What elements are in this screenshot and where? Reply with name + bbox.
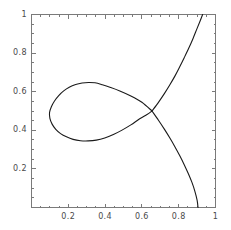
- x-tick-label: 0.8: [168, 212, 190, 221]
- x-tick-label: 0.6: [131, 212, 153, 221]
- x-tick-label: 0.2: [57, 212, 79, 221]
- frame-rect: [32, 15, 216, 208]
- y-tick-label: 0.2: [0, 164, 27, 173]
- y-tick-label: 0.8: [0, 48, 27, 57]
- plot-frame: [32, 15, 216, 208]
- curve-paths: [49, 15, 202, 208]
- tick-marks: [32, 15, 216, 208]
- curve-lower-branch: [152, 111, 198, 208]
- x-tick-label: 1: [205, 212, 227, 221]
- x-tick-label: 0.4: [94, 212, 116, 221]
- plot-figure: 0.20.40.60.81 0.20.40.60.81: [0, 0, 231, 230]
- y-tick-label: 1: [0, 10, 27, 19]
- plot-canvas: [0, 0, 231, 230]
- y-tick-label: 0.6: [0, 87, 27, 96]
- y-tick-label: 0.4: [0, 125, 27, 134]
- curve-loop-branch: [49, 82, 152, 141]
- curve-upper-branch: [152, 15, 203, 112]
